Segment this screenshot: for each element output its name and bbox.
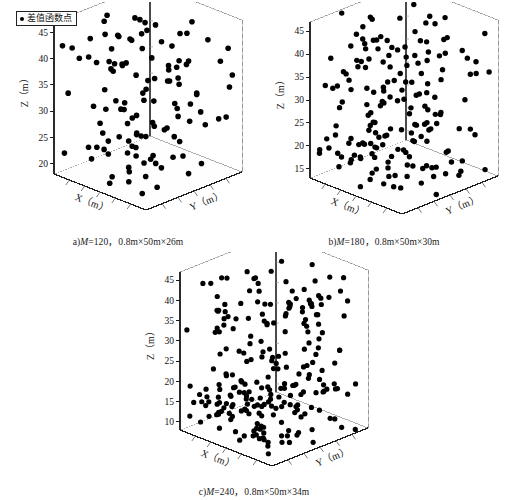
svg-text:35: 35	[39, 80, 49, 90]
svg-text:40: 40	[165, 296, 175, 306]
svg-text:20: 20	[295, 141, 305, 151]
svg-text:X（m）: X（m）	[74, 191, 111, 214]
caption-c: c)M=240，0.8m×50m×34m	[128, 486, 380, 498]
caption-a-rest: =120，0.8m×50m×26m	[88, 237, 183, 247]
svg-text:20: 20	[39, 159, 49, 169]
svg-text:35: 35	[165, 316, 175, 326]
svg-text:Y（m）: Y（m）	[314, 445, 351, 468]
plot-area-c: 1015202530354045Z（m）X（m）Y（m）	[128, 252, 380, 476]
scatter-3d-c: 1015202530354045Z（m）X（m）Y（m）	[128, 252, 380, 476]
svg-text:30: 30	[39, 106, 49, 116]
panel-c: 1015202530354045Z（m）X（m）Y（m） 差值函数点 c)M=2…	[128, 252, 380, 498]
svg-text:45: 45	[165, 275, 175, 285]
svg-text:Z（m）: Z（m）	[275, 75, 286, 109]
caption-b-var: M	[337, 237, 345, 247]
svg-text:10: 10	[165, 417, 175, 427]
svg-text:Z（m）: Z（m）	[19, 73, 30, 107]
svg-text:X（m）: X（m）	[330, 195, 367, 218]
svg-text:35: 35	[295, 72, 305, 82]
figure-3d-scatter-panels: 202530354045Z（m）X（m）Y（m） 差值函数点 a)M=120，0…	[0, 0, 513, 500]
plot-area-b: 15202530354045Z（m）X（m）Y（m）	[258, 2, 510, 226]
svg-text:15: 15	[295, 164, 305, 174]
legend-label: 差值函数点	[27, 13, 72, 24]
svg-text:20: 20	[165, 377, 175, 387]
svg-text:15: 15	[165, 397, 175, 407]
caption-b-prefix: b)	[328, 237, 336, 247]
legend-marker-icon	[20, 17, 24, 21]
svg-text:Y（m）: Y（m）	[444, 193, 481, 216]
caption-a: a)M=120，0.8m×50m×26m	[2, 236, 254, 248]
svg-text:25: 25	[295, 118, 305, 128]
caption-b-rest: =180，0.8m×50m×30m	[345, 237, 440, 247]
svg-text:30: 30	[165, 336, 175, 346]
svg-text:30: 30	[295, 95, 305, 105]
svg-text:Y（m）: Y（m）	[188, 189, 225, 212]
svg-text:25: 25	[39, 133, 49, 143]
svg-text:40: 40	[295, 49, 305, 59]
scatter-3d-b: 15202530354045Z（m）X（m）Y（m）	[258, 2, 510, 226]
legend-a: 差值函数点	[16, 11, 77, 26]
svg-text:Z（m）: Z（m）	[145, 326, 156, 360]
caption-c-rest: =240，0.8m×50m×34m	[214, 487, 309, 497]
svg-text:X（m）: X（m）	[200, 447, 237, 470]
panel-b: 15202530354045Z（m）X（m）Y（m） 差值函数点 b)M=180…	[258, 2, 510, 248]
svg-text:45: 45	[39, 28, 49, 38]
svg-text:45: 45	[295, 26, 305, 36]
svg-text:25: 25	[165, 356, 175, 366]
caption-b: b)M=180，0.8m×50m×30m	[258, 236, 510, 248]
svg-text:40: 40	[39, 54, 49, 64]
scatter-3d-a: 202530354045Z（m）X（m）Y（m）	[2, 2, 254, 226]
panel-a: 202530354045Z（m）X（m）Y（m） 差值函数点 a)M=120，0…	[2, 2, 254, 248]
plot-area-a: 202530354045Z（m）X（m）Y（m）	[2, 2, 254, 226]
